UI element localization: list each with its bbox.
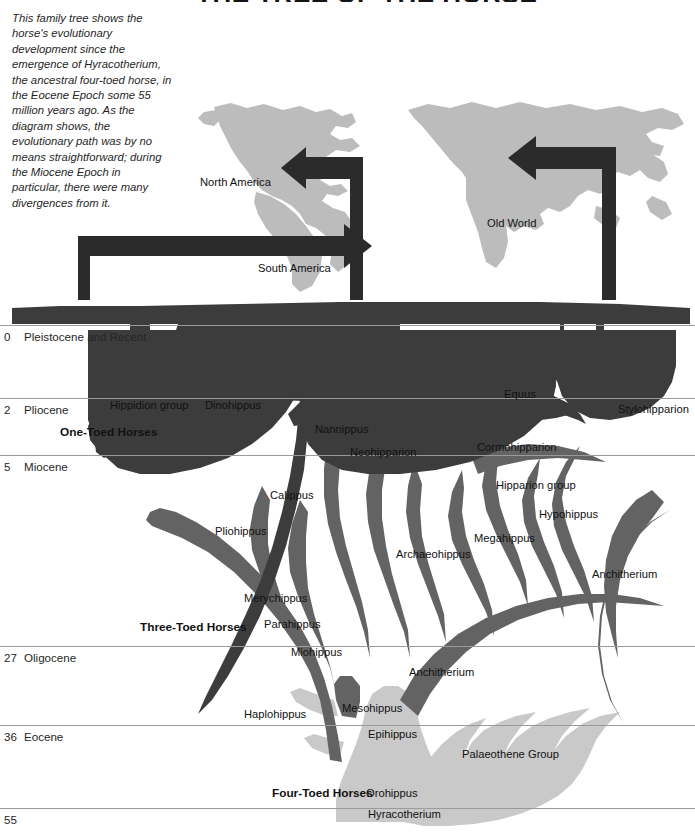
taxon-label-nannippus: Nannippus: [315, 423, 369, 435]
timeline-epoch-27: Oligocene: [24, 651, 76, 664]
timeline-label-36: 36Eocene: [4, 730, 63, 743]
taxon-label-anchitherium-lower: Anchitherium: [409, 666, 474, 678]
taxon-label-neohipparion: Neohipparion: [350, 446, 417, 458]
timeline-mya-27: 27: [4, 651, 24, 664]
taxon-label-megahippus: Megahippus: [474, 532, 535, 544]
taxon-label-calippus: Calippus: [270, 489, 314, 501]
taxon-label-haplohippus: Haplohippus: [244, 708, 306, 720]
timeline-label-5: 5Miocene: [4, 460, 68, 473]
timeline-epoch-0: Pleistocene and Recent: [24, 330, 146, 343]
figure-canvas: THE TREE OF THE HORSE This family tree s…: [0, 0, 695, 833]
timeline-epoch-5: Miocene: [24, 460, 68, 473]
timeline-rule-2: [0, 398, 695, 399]
map-label-north-america: North America: [200, 176, 271, 188]
map-label-south-america: South America: [258, 262, 331, 274]
group-caption-one-toed-horses: One-Toed Horses: [60, 425, 157, 439]
map-label-old-world: Old World: [487, 217, 537, 229]
taxon-label-dinohippus: Dinohippus: [205, 399, 261, 411]
timeline-label-55: 55: [4, 813, 24, 826]
timeline-epoch-36: Eocene: [24, 730, 63, 743]
timeline-rule-0: [0, 325, 695, 326]
taxon-label-equus: Equus: [504, 388, 536, 400]
timeline-mya-0: 0: [4, 330, 24, 343]
timeline-rule-55: [0, 808, 695, 809]
taxon-label-anchitherium-upper: Anchitherium: [592, 568, 657, 580]
taxon-label-mesohippus: Mesohippus: [342, 702, 402, 714]
group-caption-three-toed-horses: Three-Toed Horses: [140, 620, 247, 634]
taxon-label-hipparion-group: Hipparion group: [496, 479, 576, 491]
timeline-epoch-2: Pliocene: [24, 403, 68, 416]
taxon-label-archaeohippus: Archaeohippus: [396, 548, 471, 560]
taxon-label-miohippus: Miohippus: [291, 646, 342, 658]
timeline-mya-5: 5: [4, 460, 24, 473]
taxon-label-hyracotherium: Hyracotherium: [368, 808, 441, 820]
timeline-rule-5: [0, 455, 695, 456]
taxon-label-cormohipparion: Cormohipparion: [477, 441, 557, 453]
timeline-label-2: 2Pliocene: [4, 403, 68, 416]
taxon-label-orohippus: Orohippus: [366, 787, 418, 799]
group-caption-four-toed-horses: Four-Toed Horses: [272, 786, 373, 800]
taxon-label-stylohipparion: Stylohipparion: [618, 403, 689, 415]
taxon-label-parahippus: Parahippus: [264, 618, 321, 630]
timeline-rule-27: [0, 646, 695, 647]
timeline-rule-36: [0, 725, 695, 726]
taxon-label-pliohippus: Pliohippus: [215, 525, 267, 537]
taxon-label-hippidion-group: Hippidion group: [110, 399, 188, 411]
timeline-label-0: 0Pleistocene and Recent: [4, 330, 146, 343]
taxon-label-epihippus: Epihippus: [368, 728, 417, 740]
timeline-mya-55: 55: [4, 813, 24, 826]
taxon-label-hypohippus: Hypohippus: [539, 508, 598, 520]
timeline-label-27: 27Oligocene: [4, 651, 76, 664]
taxon-label-merychippus: Merychippus: [244, 592, 307, 604]
timeline-mya-36: 36: [4, 730, 24, 743]
taxon-label-palaeothene-group: Palaeothene Group: [462, 748, 559, 760]
timeline-mya-2: 2: [4, 403, 24, 416]
